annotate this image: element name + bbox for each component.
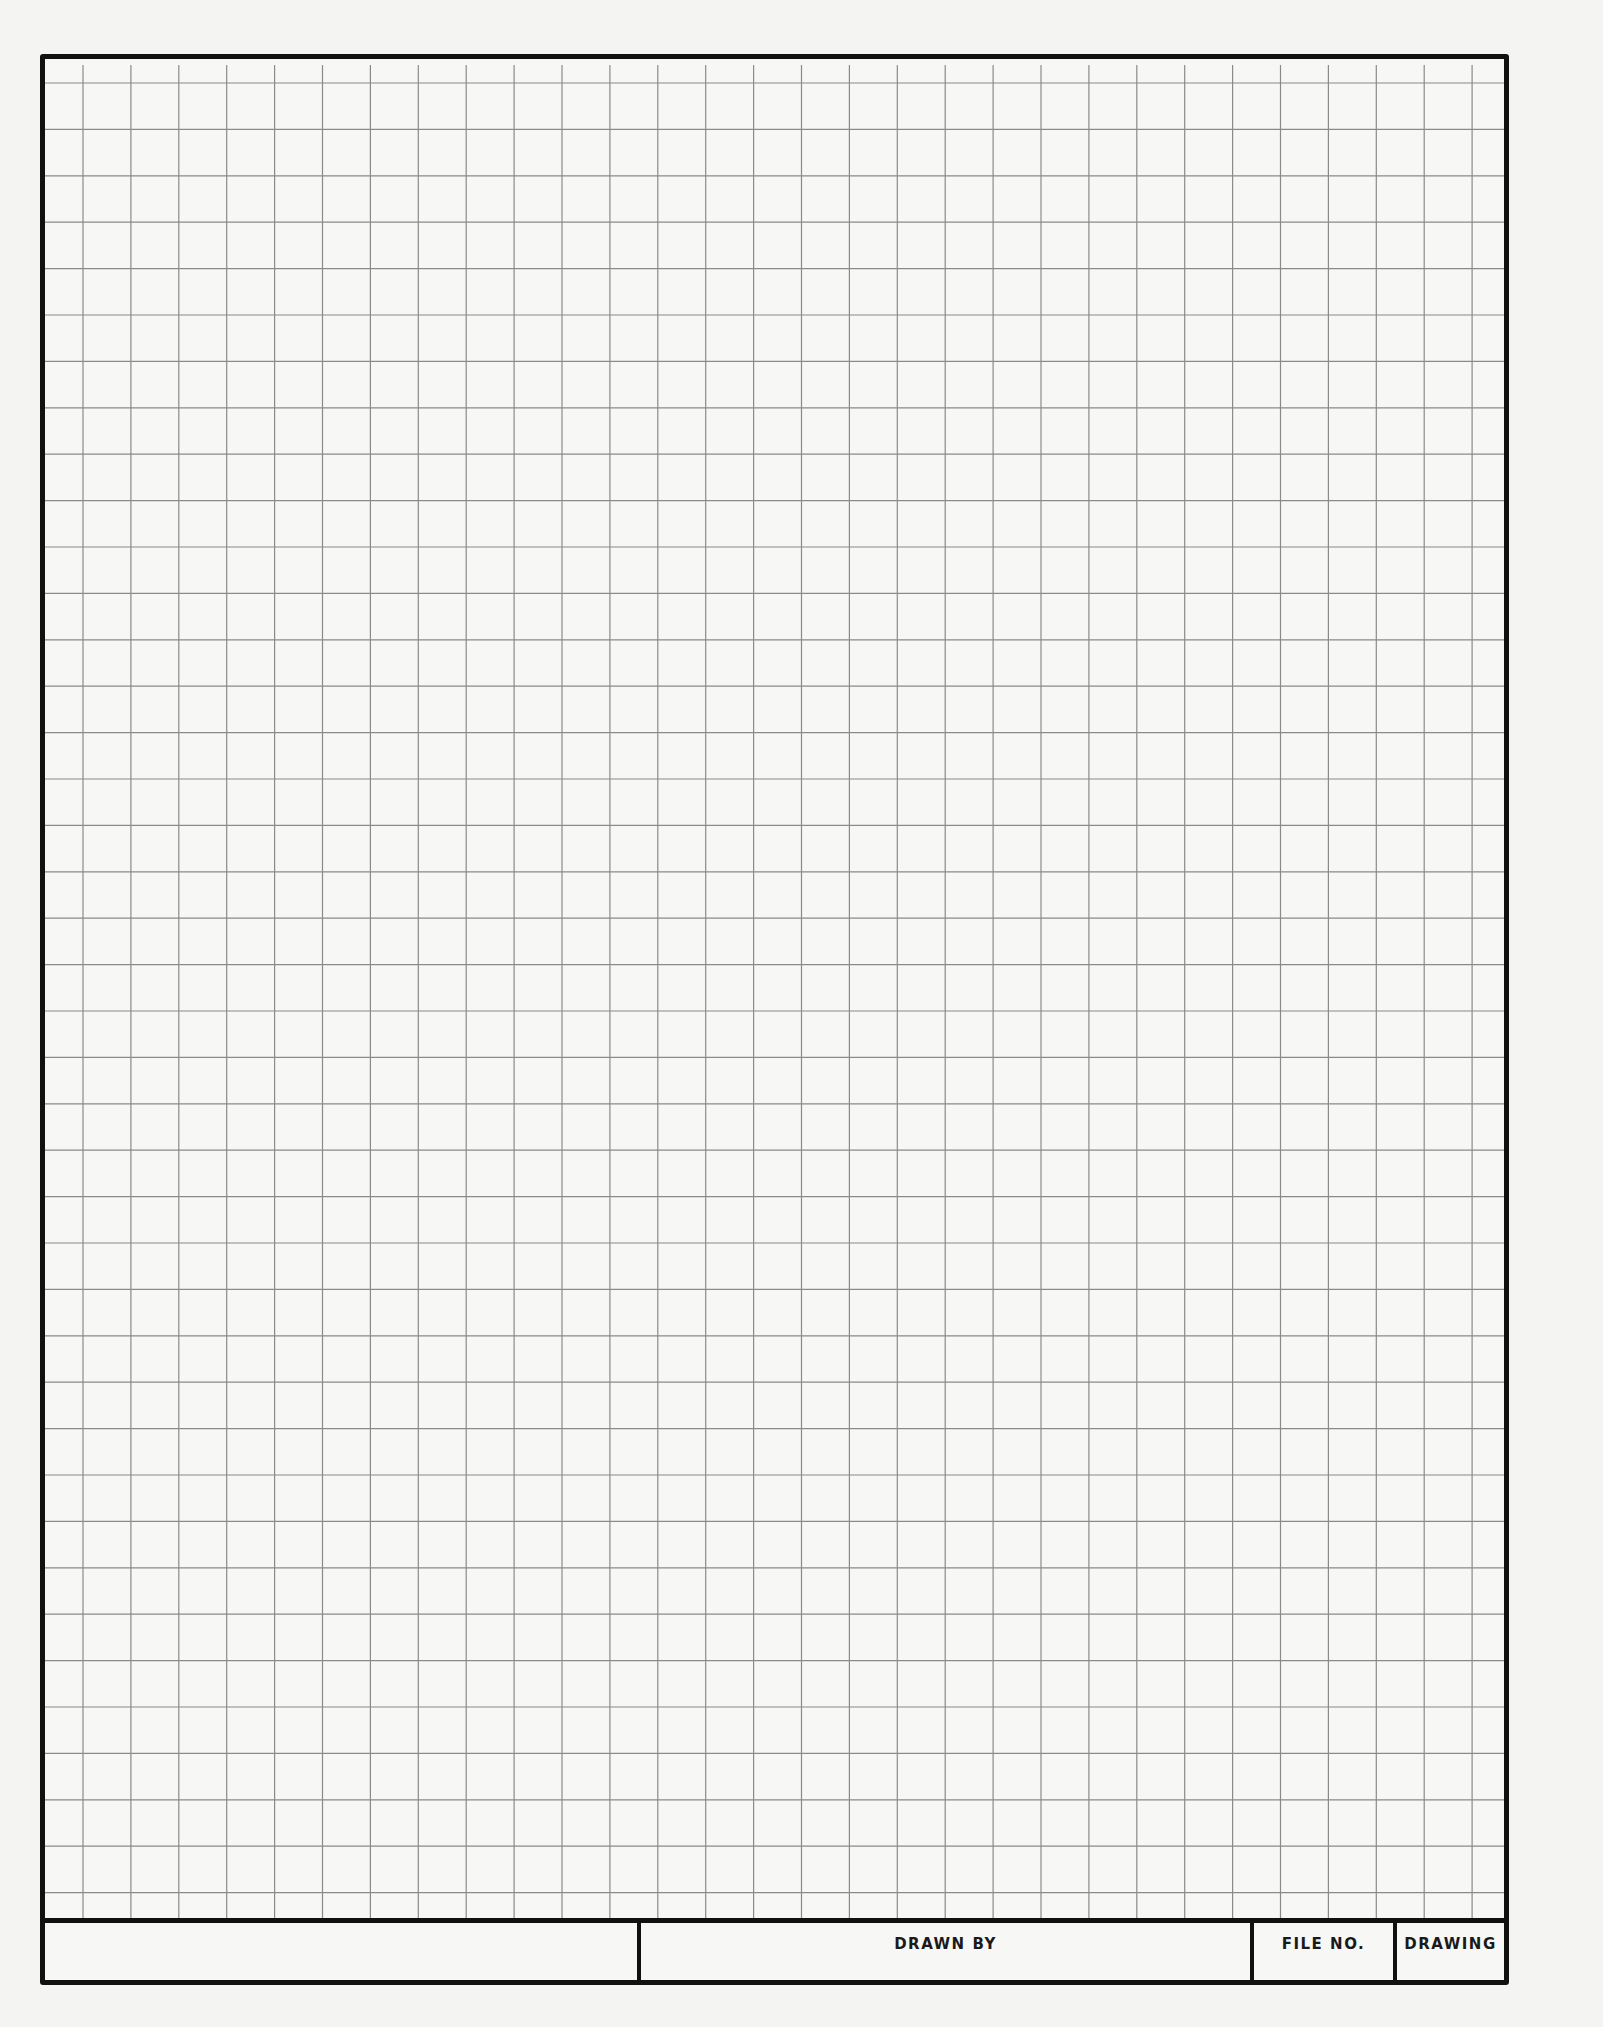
drawn-by-field[interactable]: DRAWN BY	[641, 1923, 1254, 1980]
grid-area	[45, 59, 1504, 1919]
drawn-by-label: DRAWN BY	[641, 1935, 1250, 1953]
drawing-sheet: DRAWN BY FILE NO. DRAWING	[40, 54, 1509, 1985]
file-no-label: FILE NO.	[1254, 1935, 1393, 1953]
drawing-field[interactable]: DRAWING	[1397, 1923, 1504, 1980]
drawing-label: DRAWING	[1397, 1935, 1504, 1953]
title-field-blank[interactable]	[45, 1923, 641, 1980]
file-no-field[interactable]: FILE NO.	[1254, 1923, 1397, 1980]
title-block: DRAWN BY FILE NO. DRAWING	[45, 1918, 1504, 1980]
